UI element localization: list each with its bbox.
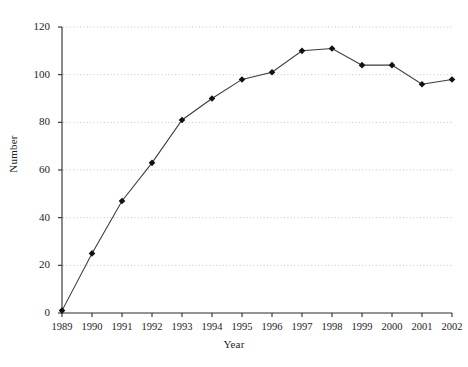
data-markers [59,45,456,314]
data-point-marker [89,250,96,257]
x-axis-tick-label: 2002 [430,321,468,332]
data-line [62,48,452,310]
data-point-marker [239,76,246,83]
x-axis-ticks [62,313,452,317]
y-axis-tick-label: 40 [16,212,50,223]
y-axis-tick-label: 80 [16,116,50,127]
data-point-marker [449,76,456,83]
data-point-marker [419,81,426,88]
plot-area [0,0,468,367]
y-axis-tick-label: 120 [16,21,50,32]
y-axis-title: Number [7,119,19,189]
y-axis-tick-label: 100 [16,69,50,80]
y-axis-tick-label: 60 [16,164,50,175]
y-axis-ticks [58,27,62,313]
data-point-marker [209,95,216,102]
y-axis-tick-label: 0 [16,307,50,318]
y-axis-tick-label: 20 [16,259,50,270]
data-point-marker [389,62,396,69]
data-point-marker [179,117,186,124]
x-axis-title: Year [0,338,468,350]
data-point-marker [299,48,306,55]
line-chart-figure: Number Year 020406080100120 198919901991… [0,0,468,367]
data-point-marker [329,45,336,52]
data-point-marker [359,62,366,69]
gridlines [63,27,452,265]
